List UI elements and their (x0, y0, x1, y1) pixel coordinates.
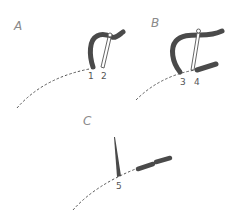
panel-b: B 3 4 (136, 16, 222, 100)
panel-c-tube-segment-1 (138, 164, 153, 169)
panel-c: C 5 (73, 114, 170, 210)
panel-a-dashed-path (17, 68, 95, 108)
marker-3: 3 (180, 77, 186, 87)
panel-c-dashed-path (73, 168, 138, 210)
panel-b-tube-segment (197, 64, 216, 70)
marker-4: 4 (194, 77, 200, 87)
panel-a-needle (101, 33, 112, 68)
panel-b-dashed-path (136, 70, 195, 100)
marker-1: 1 (88, 71, 94, 81)
figure-canvas: A 1 2 B 3 4 C 5 (0, 0, 237, 223)
panel-b-label: B (151, 16, 159, 30)
panel-c-tube-segment-2 (156, 158, 170, 162)
marker-5: 5 (116, 181, 122, 191)
panel-c-spike (114, 137, 121, 177)
panel-a: A 1 2 (13, 19, 123, 108)
panel-a-label: A (13, 19, 22, 33)
panel-c-label: C (83, 114, 92, 128)
marker-2: 2 (101, 71, 107, 81)
